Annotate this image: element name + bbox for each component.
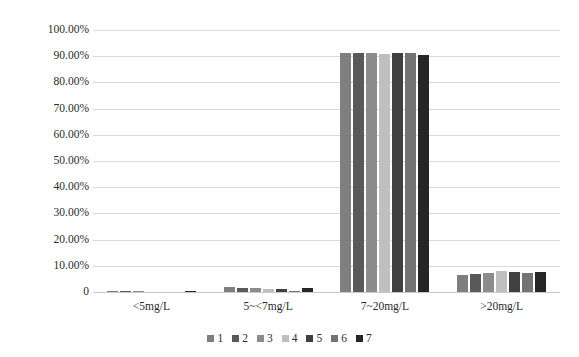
bar[interactable] <box>340 53 351 292</box>
y-axis-tick-label: 30.00% <box>3 207 89 219</box>
y-axis-tick-label: 70.00% <box>3 103 89 115</box>
legend-item-label: 6 <box>341 333 347 345</box>
legend-swatch-icon <box>257 335 264 342</box>
y-axis: 100.00%90.00%80.00%70.00%60.00%50.00%40.… <box>0 0 89 357</box>
legend-swatch-icon <box>331 335 338 342</box>
bar[interactable] <box>522 273 533 292</box>
legend-swatch-icon <box>232 335 239 342</box>
legend-swatch-icon <box>207 335 214 342</box>
legend-item[interactable]: 6 <box>331 333 347 345</box>
bar-chart: 100.00%90.00%80.00%70.00%60.00%50.00%40.… <box>0 0 579 357</box>
x-axis-tick-label: <5mg/L <box>93 300 210 312</box>
bar-group <box>224 30 313 292</box>
legend-item[interactable]: 5 <box>306 333 322 345</box>
bar[interactable] <box>535 272 546 292</box>
y-axis-tick-label: 100.00% <box>3 24 89 36</box>
chart-legend: 1234567 <box>0 333 579 345</box>
bar[interactable] <box>353 53 364 292</box>
y-axis-tick-label: 20.00% <box>3 234 89 246</box>
bar-group-bars <box>107 30 196 292</box>
legend-item[interactable]: 4 <box>282 333 298 345</box>
y-axis-tick-label: 60.00% <box>3 129 89 141</box>
legend-item[interactable]: 7 <box>356 333 372 345</box>
bar-group-bars <box>340 30 429 292</box>
bar[interactable] <box>379 54 390 292</box>
bar[interactable] <box>418 55 429 292</box>
bar-group <box>340 30 429 292</box>
x-axis-tick-label: >20mg/L <box>443 300 560 312</box>
y-axis-tick-label: 90.00% <box>3 50 89 62</box>
plot-area: <5mg/L5~<7mg/L7~20mg/L>20mg/L <box>93 30 560 292</box>
y-axis-tick-label: 10.00% <box>3 260 89 272</box>
y-axis-tick-label: 40.00% <box>3 181 89 193</box>
bar[interactable] <box>405 53 416 292</box>
bar[interactable] <box>392 53 403 292</box>
bar[interactable] <box>457 275 468 292</box>
y-axis-tick-label: 80.00% <box>3 76 89 88</box>
legend-item[interactable]: 2 <box>232 333 248 345</box>
bar-group-bars <box>224 30 313 292</box>
bar[interactable] <box>496 271 507 292</box>
y-axis-tick-label: 0 <box>3 286 89 298</box>
x-axis-tick-label: 5~<7mg/L <box>210 300 327 312</box>
bar-group <box>107 30 196 292</box>
bar[interactable] <box>483 273 494 292</box>
x-axis-tick-label: 7~20mg/L <box>327 300 444 312</box>
legend-item-label: 5 <box>316 333 322 345</box>
legend-item-label: 4 <box>292 333 298 345</box>
y-axis-tick-label: 50.00% <box>3 155 89 167</box>
bar[interactable] <box>470 274 481 292</box>
legend-item-label: 7 <box>366 333 372 345</box>
legend-item[interactable]: 3 <box>257 333 273 345</box>
bar[interactable] <box>509 272 520 292</box>
legend-swatch-icon <box>306 335 313 342</box>
legend-item-label: 2 <box>242 333 248 345</box>
legend-swatch-icon <box>282 335 289 342</box>
x-axis-baseline <box>93 292 560 293</box>
bar-group-bars <box>457 30 546 292</box>
legend-swatch-icon <box>356 335 363 342</box>
legend-item-label: 3 <box>267 333 273 345</box>
bar[interactable] <box>366 53 377 292</box>
legend-item-label: 1 <box>217 333 223 345</box>
bar-group <box>457 30 546 292</box>
legend-item[interactable]: 1 <box>207 333 223 345</box>
